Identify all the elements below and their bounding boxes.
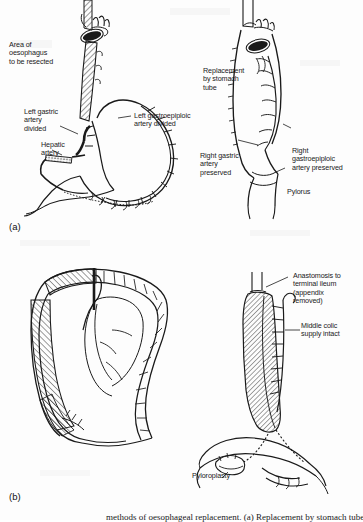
panel-label-b: (b) [9,491,21,502]
figure-caption: methods of oesophageal replacement. (a) … [106,512,363,522]
label-replacement-by-stomach-tube: Replacement by stomach tube [203,67,244,92]
label-right-gastric-artery-preserved: Right gastric artery preserved [200,152,239,177]
label-hepatic-artery: Hepatic artery [41,141,65,158]
label-pylorus: Pylorus [287,188,310,196]
label-left-gastric-artery-divided: Left gastric artery divided [24,108,58,133]
label-middle-colic-supply-intact: Middle colic supply intact [301,322,340,339]
label-pyloroplasty: Pyloroplasty [192,472,230,480]
label-left-gastroepiploic-artery-divided: Left gastroepiploic artery divided [134,112,190,129]
panel-label-a: (a) [9,221,21,232]
label-area-of-oesophagus: Area of oesophagus to be resected [9,41,53,66]
label-anastomosis-terminal-ileum: Anastomosis to terminal ileum (appendix … [293,272,341,306]
label-right-gastroepiploic-artery-preserved: Right gastroepiploic artery preserved [292,147,343,172]
